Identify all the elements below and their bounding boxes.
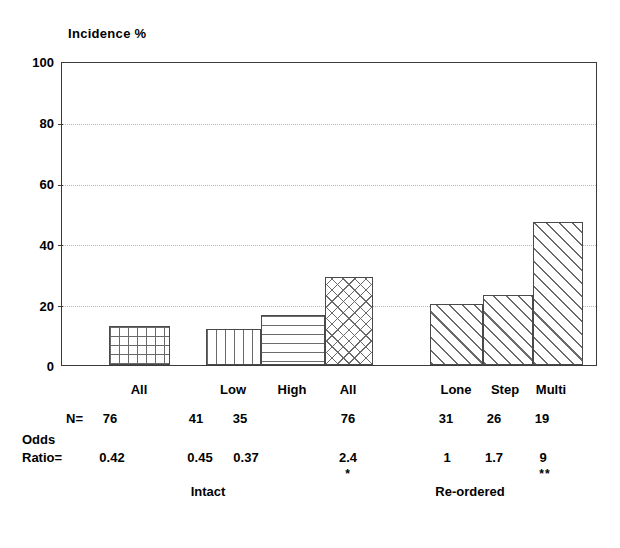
n-value-reordered-lone: 31 — [439, 411, 453, 426]
n-value-reordered-multi: 19 — [535, 411, 549, 426]
bar-intact-high — [261, 315, 325, 365]
x-label-intact-high: High — [278, 382, 307, 397]
bar-intact-low — [206, 329, 261, 366]
y-tick-mark-40 — [58, 245, 63, 246]
y-tick-mark-20 — [58, 306, 63, 307]
odds-value-intact-all: 0.42 — [99, 450, 124, 465]
bar-intact-all — [109, 326, 170, 365]
x-label-intact-all: All — [131, 382, 148, 397]
odds-label-line2: Ratio= — [22, 450, 62, 465]
odds-label-line1: Odds — [22, 432, 55, 447]
n-value-intact-low: 41 — [189, 411, 203, 426]
gridline-40 — [62, 245, 596, 246]
bar-reordered-lone — [430, 304, 483, 365]
bar-reordered-all — [325, 277, 373, 365]
y-tick-mark-60 — [58, 185, 63, 186]
bar-reordered-step — [483, 295, 533, 365]
n-value-intact-all: 76 — [103, 411, 117, 426]
odds-value-reordered-all: 2.4 — [339, 450, 357, 465]
gridline-80 — [62, 124, 596, 125]
y-tick-label-20: 20 — [6, 299, 54, 314]
odds-value-reordered-lone: 1 — [443, 450, 450, 465]
significance-reordered-multi: ** — [539, 467, 550, 481]
y-tick-label-0: 0 — [6, 359, 54, 374]
group-label-intact: Intact — [191, 484, 226, 499]
odds-value-reordered-step: 1.7 — [485, 450, 503, 465]
plot-area — [61, 62, 597, 366]
y-tick-label-40: 40 — [6, 238, 54, 253]
gridline-60 — [62, 185, 596, 186]
bar-reordered-multi — [533, 222, 583, 365]
y-axis-title: Incidence % — [68, 26, 146, 41]
x-label-intact-low: Low — [220, 382, 246, 397]
odds-value-reordered-multi: 9 — [539, 450, 546, 465]
bar-chart-figure: Incidence % 100 80 60 40 20 0 All Low Hi… — [0, 0, 620, 548]
n-row-label: N= — [66, 411, 83, 426]
group-label-reordered: Re-ordered — [435, 484, 504, 499]
n-value-reordered-step: 26 — [487, 411, 501, 426]
significance-reordered-all: * — [345, 467, 351, 481]
y-tick-label-60: 60 — [6, 177, 54, 192]
n-value-reordered-all: 76 — [341, 411, 355, 426]
x-label-reordered-lone: Lone — [440, 382, 471, 397]
x-label-reordered-step: Step — [491, 382, 519, 397]
odds-value-intact-high: 0.37 — [233, 450, 258, 465]
n-value-intact-high: 35 — [233, 411, 247, 426]
y-tick-mark-80 — [58, 124, 63, 125]
y-tick-label-80: 80 — [6, 116, 54, 131]
odds-value-intact-low: 0.45 — [187, 450, 212, 465]
x-label-reordered-multi: Multi — [536, 382, 566, 397]
x-label-reordered-all: All — [340, 382, 357, 397]
y-tick-label-100: 100 — [6, 55, 54, 70]
